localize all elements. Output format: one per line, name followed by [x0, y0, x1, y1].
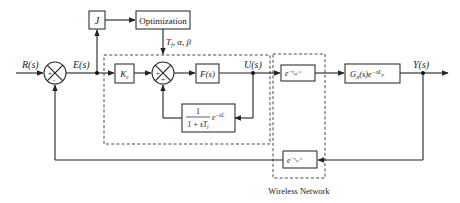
- output-signal-label: Y(s): [413, 59, 430, 71]
- filter-block: F(s): [196, 64, 219, 83]
- control-junction-dot: [251, 71, 255, 75]
- sum2-plus-sign-left: +: [156, 70, 160, 78]
- plant-block: Gn(s)e−sLp: [345, 64, 400, 83]
- svg-text:J: J: [95, 15, 100, 26]
- controller-actuator-delay-block: e−τca s: [281, 65, 315, 81]
- j-block: J: [89, 11, 105, 29]
- svg-text:Optimization: Optimization: [139, 16, 187, 26]
- sum1-plus-sign: +: [48, 70, 52, 78]
- svg-text:1 + sTi: 1 + sTi: [187, 120, 209, 130]
- reference-signal-label: R(s): [21, 59, 39, 71]
- optimization-block: Optimization: [136, 11, 190, 29]
- optimization-output-label: Tf, α, β: [166, 37, 191, 48]
- svg-text:F(s): F(s): [199, 69, 215, 79]
- internal-feedback-block: 1 1 + sTi e−sL: [182, 104, 235, 132]
- output-junction-dot: [421, 71, 425, 75]
- error-junction-dot: [95, 71, 99, 75]
- sensor-controller-delay-block: e−τsc s: [283, 151, 317, 168]
- error-signal-label: E(s): [72, 59, 90, 71]
- summing-junction-2: + +: [152, 62, 174, 84]
- summing-junction-1: + -: [44, 62, 66, 84]
- block-diagram: + - + + J Optimization Tf, α, β Kc F(s) …: [0, 0, 460, 203]
- svg-text:1: 1: [196, 107, 200, 116]
- sum2-plus-sign-bottom: +: [161, 76, 165, 84]
- kc-gain-block: Kc: [115, 64, 134, 83]
- wireless-network-label: Wireless Network: [268, 186, 330, 196]
- control-signal-label: U(s): [244, 59, 262, 71]
